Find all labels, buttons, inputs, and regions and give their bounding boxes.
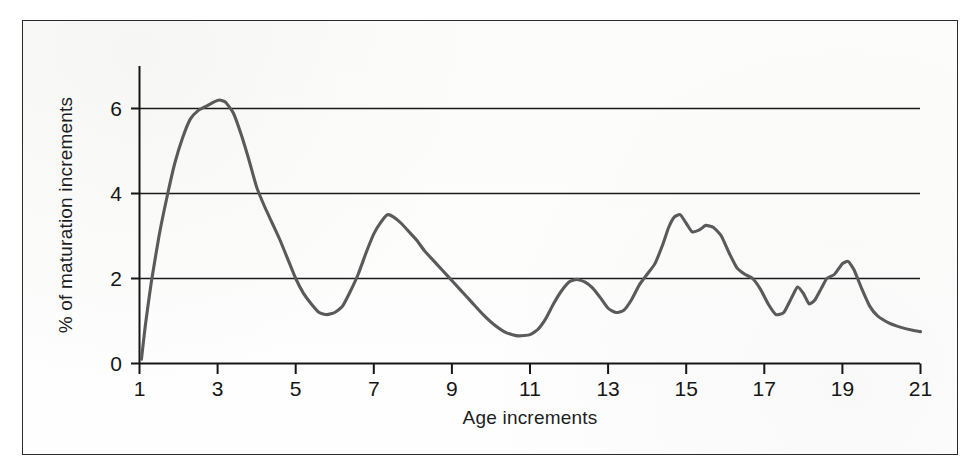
x-tick-label-17: 17 bbox=[753, 377, 776, 400]
x-tick-label-group: 1 3 5 7 9 11 13 15 17 19 21 bbox=[134, 377, 933, 400]
y-tick-label-2: 2 bbox=[110, 267, 122, 290]
x-axis-title: Age increments bbox=[463, 407, 598, 428]
x-tick-label-13: 13 bbox=[596, 377, 619, 400]
x-tick-label-15: 15 bbox=[675, 377, 698, 400]
x-tick-label-19: 19 bbox=[831, 377, 854, 400]
x-tick-label-3: 3 bbox=[212, 377, 224, 400]
y-tick-label-4: 4 bbox=[110, 182, 122, 205]
gridline-group bbox=[139, 109, 920, 279]
data-series-line bbox=[141, 100, 920, 359]
x-tick-label-21: 21 bbox=[909, 377, 932, 400]
x-tick-label-9: 9 bbox=[446, 377, 458, 400]
y-tick-label-6: 6 bbox=[110, 97, 122, 120]
y-tick-label-group: 6 4 2 0 bbox=[110, 97, 122, 375]
x-tick-label-7: 7 bbox=[368, 377, 380, 400]
x-tick-group bbox=[140, 364, 921, 375]
figure-root: 6 4 2 0 1 3 5 7 9 11 13 1 bbox=[0, 0, 980, 474]
x-tick-label-1: 1 bbox=[134, 377, 146, 400]
y-tick-group bbox=[131, 109, 139, 364]
x-tick-label-5: 5 bbox=[290, 377, 302, 400]
y-tick-label-0: 0 bbox=[110, 352, 122, 375]
y-axis-title: % of maturation increments bbox=[55, 97, 76, 333]
chart-plot-area: 6 4 2 0 1 3 5 7 9 11 13 1 bbox=[0, 0, 980, 474]
x-tick-label-11: 11 bbox=[519, 377, 541, 400]
